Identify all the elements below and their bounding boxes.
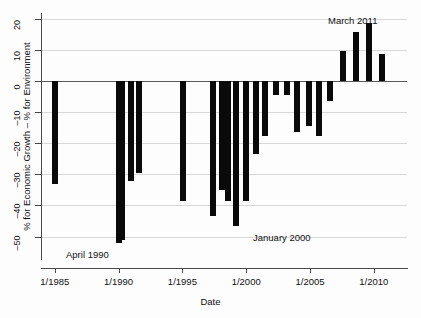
y-tick-label: –50 [0,232,34,242]
bar [52,81,58,183]
y-tick-label-text: –20 [12,142,22,157]
x-tick-mark [310,268,311,273]
x-tick-label: 1/2005 [295,276,324,287]
bar [233,81,239,225]
chart-annotation: January 2000 [253,232,311,243]
x-tick-mark [246,268,247,273]
y-tick-label: –20 [0,138,34,148]
x-tick-mark [182,268,183,273]
gridline [42,237,407,238]
y-tick-label: –40 [0,200,34,210]
y-tick-label-text: 10 [12,51,22,61]
y-tick-label-text: –50 [12,235,22,250]
x-tick-label: 1/1995 [168,276,197,287]
y-tick-mark [35,112,41,113]
y-tick-label: 0 [0,76,34,86]
x-tick-mark [119,268,120,273]
bar [379,54,385,81]
chart-annotation: April 1990 [66,249,109,260]
bar [253,81,259,154]
bar [273,81,279,95]
bar [219,81,225,190]
y-tick-mark [35,19,41,20]
chart-figure: % for Economic Growth – % for Environmen… [0,0,421,318]
y-tick-label-text: –40 [12,204,22,219]
chart-annotation: March 2011 [328,15,377,26]
bar [353,32,359,81]
bar [225,81,231,201]
y-tick-label: –10 [0,107,34,117]
bar [119,81,125,239]
y-tick-mark [35,205,41,206]
bar [136,81,142,173]
bar [316,81,322,135]
y-tick-label-text: 0 [12,85,22,90]
bar [180,81,186,201]
y-tick-mark [35,50,41,51]
bar [284,81,290,95]
y-tick-label: –30 [0,169,34,179]
y-tick-label: 10 [0,45,34,55]
bar [306,81,312,126]
bar [243,81,249,201]
x-axis-line [41,268,408,269]
y-tick-mark [35,237,41,238]
bar [128,81,134,180]
bar [210,81,216,216]
bar [262,81,268,135]
y-tick-label-text: –10 [12,111,22,126]
bar [294,81,300,132]
x-tick-label: 1/1990 [104,276,133,287]
gridline [42,205,407,206]
x-tick-label: 1/1985 [40,276,69,287]
plot-area [42,13,407,252]
y-tick-label-text: 20 [12,20,22,30]
x-tick-label: 1/2000 [232,276,261,287]
y-tick-label: 20 [0,14,34,24]
y-tick-label-text: –30 [12,173,22,188]
bar [340,51,346,81]
y-tick-mark [35,143,41,144]
x-tick-mark [55,268,56,273]
y-tick-mark [35,174,41,175]
x-tick-mark [374,268,375,273]
bar [327,81,333,101]
y-tick-mark [35,81,41,82]
x-axis-label: Date [0,296,421,307]
x-tick-label: 1/2010 [359,276,388,287]
bar [366,23,372,81]
